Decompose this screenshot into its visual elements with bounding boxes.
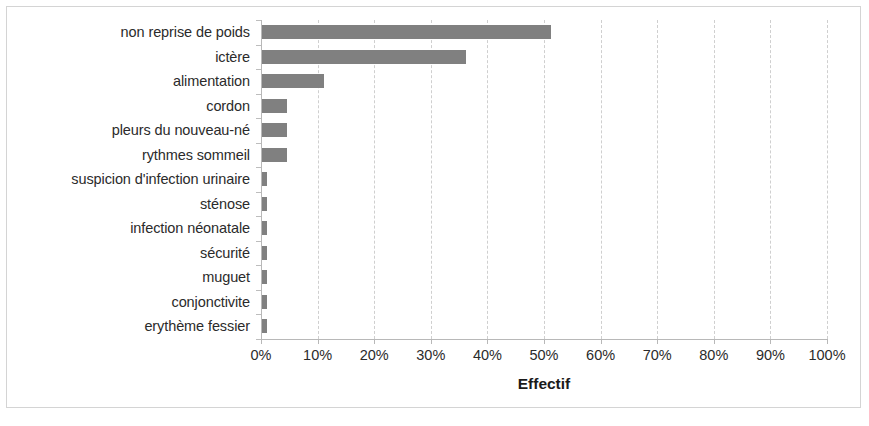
category-label: non reprise de poids	[8, 20, 250, 45]
bar	[262, 99, 287, 113]
y-axis-tick	[256, 241, 261, 242]
x-axis-tick	[601, 339, 602, 344]
y-axis-tick	[256, 20, 261, 21]
bar-row	[262, 167, 828, 192]
bar	[262, 50, 466, 64]
bar-row	[262, 290, 828, 315]
bar	[262, 172, 267, 186]
category-label: sécurité	[8, 241, 250, 266]
y-axis-tick	[256, 69, 261, 70]
x-axis-tick	[487, 339, 488, 344]
y-axis-tick	[256, 143, 261, 144]
x-axis-tick-label: 90%	[740, 347, 800, 363]
category-label: ictère	[8, 45, 250, 70]
y-axis-tick	[256, 94, 261, 95]
x-axis-tick	[431, 339, 432, 344]
y-axis-tick	[256, 265, 261, 266]
bar-row	[262, 45, 828, 70]
x-axis-tick	[827, 339, 828, 344]
x-axis-tick-label: 100%	[797, 347, 857, 363]
bar-row	[262, 241, 828, 266]
bar-row	[262, 216, 828, 241]
x-axis-tick	[374, 339, 375, 344]
y-axis-tick	[256, 167, 261, 168]
horizontal-bar-chart: non reprise de poidsictèrealimentationco…	[0, 0, 869, 426]
x-axis-tick-label: 50%	[514, 347, 574, 363]
bar-row	[262, 265, 828, 290]
bar	[262, 295, 267, 309]
x-axis-tick	[318, 339, 319, 344]
bar	[262, 246, 267, 260]
x-axis-tick	[657, 339, 658, 344]
x-axis-tick-label: 60%	[571, 347, 631, 363]
bar-row	[262, 118, 828, 143]
bar-row	[262, 94, 828, 119]
bar	[262, 197, 267, 211]
x-axis-tick	[770, 339, 771, 344]
category-label: conjonctivite	[8, 290, 250, 315]
bar	[262, 148, 287, 162]
y-axis-tick	[256, 45, 261, 46]
category-label: sténose	[8, 192, 250, 217]
y-axis-tick	[256, 216, 261, 217]
bar-row	[262, 192, 828, 217]
x-axis-tick	[261, 339, 262, 344]
x-axis-title: Effectif	[261, 375, 827, 393]
bar-row	[262, 69, 828, 94]
category-label: infection néonatale	[8, 216, 250, 241]
category-label: alimentation	[8, 69, 250, 94]
x-axis-tick-label: 70%	[627, 347, 687, 363]
y-axis-tick	[256, 314, 261, 315]
x-axis-tick-label: 40%	[457, 347, 517, 363]
bar	[262, 74, 324, 88]
category-label: muguet	[8, 265, 250, 290]
bar	[262, 123, 287, 137]
x-axis-tick	[714, 339, 715, 344]
category-label: pleurs du nouveau-né	[8, 118, 250, 143]
bar	[262, 221, 267, 235]
bar-row	[262, 314, 828, 339]
bar-row	[262, 143, 828, 168]
bar-row	[262, 20, 828, 45]
figure: non reprise de poidsictèrealimentationco…	[0, 0, 869, 426]
x-axis-tick	[544, 339, 545, 344]
plot-area	[261, 20, 827, 339]
y-axis-tick	[256, 118, 261, 119]
bar	[262, 270, 267, 284]
x-axis-tick-label: 0%	[231, 347, 291, 363]
category-label: cordon	[8, 94, 250, 119]
bar	[262, 319, 267, 333]
y-axis-tick	[256, 290, 261, 291]
bar	[262, 25, 551, 39]
x-axis-tick-label: 80%	[684, 347, 744, 363]
x-axis-tick-label: 20%	[344, 347, 404, 363]
category-label: rythmes sommeil	[8, 143, 250, 168]
x-axis-tick-label: 30%	[401, 347, 461, 363]
y-axis-tick	[256, 192, 261, 193]
category-axis-labels: non reprise de poidsictèrealimentationco…	[8, 20, 250, 339]
category-label: erythème fessier	[8, 314, 250, 339]
x-axis-tick-label: 10%	[288, 347, 348, 363]
category-label: suspicion d'infection urinaire	[8, 167, 250, 192]
